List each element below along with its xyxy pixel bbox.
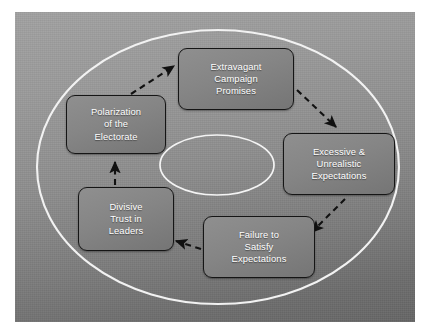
node-line: Campaign: [210, 73, 261, 85]
node-line: Electorate: [91, 131, 141, 143]
node-line: of the: [91, 118, 141, 130]
node-line: Expectations: [232, 253, 287, 265]
node-line: Extravagant: [210, 61, 261, 73]
edge-excessive-to-failure: [312, 199, 345, 232]
inner-ring-ellipse: [160, 135, 274, 195]
diagram-canvas: Extravagant Campaign Promises Excessive …: [0, 0, 430, 336]
node-line: Expectations: [312, 170, 367, 182]
edge-polarization-to-promises: [131, 66, 174, 94]
node-line: Polarization: [91, 106, 141, 118]
node-line: Unrealistic: [312, 158, 367, 170]
edge-failure-to-divisive: [176, 241, 201, 249]
node-divisive-trust-in-leaders[interactable]: Divisive Trust in Leaders: [78, 187, 174, 251]
node-line: Failure to: [232, 229, 287, 241]
node-line: Leaders: [109, 225, 144, 237]
node-line: Promises: [210, 85, 261, 97]
node-polarization-of-the-electorate[interactable]: Polarization of the Electorate: [66, 95, 166, 154]
node-extravagant-campaign-promises[interactable]: Extravagant Campaign Promises: [178, 48, 294, 110]
edge-promises-to-excessive: [297, 90, 336, 127]
node-line: Satisfy: [232, 241, 287, 253]
node-excessive-unrealistic-expectations[interactable]: Excessive & Unrealistic Expectations: [283, 133, 395, 195]
node-line: Trust in: [109, 213, 144, 225]
node-line: Excessive &: [312, 146, 367, 158]
node-line: Divisive: [109, 201, 144, 213]
node-failure-to-satisfy-expectations[interactable]: Failure to Satisfy Expectations: [203, 216, 315, 278]
